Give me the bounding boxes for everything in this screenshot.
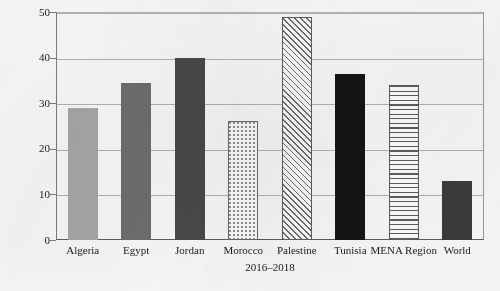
bar-world: [442, 181, 472, 240]
bar-jordan: [175, 58, 205, 240]
bar-chart: Youth Unemployment % 01020304050 Algeria…: [0, 0, 500, 291]
y-tick-mark: [50, 240, 56, 241]
y-tick-label: 20: [24, 143, 50, 154]
bar-algeria: [68, 108, 98, 240]
y-tick-label: 50: [24, 7, 50, 18]
bar-egypt: [121, 83, 151, 240]
x-tick-label-world: World: [406, 243, 500, 257]
y-tick-label: 10: [24, 189, 50, 200]
y-tick-label: 40: [24, 52, 50, 63]
y-tick-label: 30: [24, 98, 50, 109]
bar-tunisia: [335, 74, 365, 240]
x-axis-ticks: AlgeriaEgyptJordanMoroccoPalestineTunisi…: [56, 243, 484, 263]
x-axis-title: 2016–2018: [56, 261, 484, 273]
bar-series: [56, 12, 484, 240]
bar-palestine: [282, 17, 312, 240]
bar-mena-region: [389, 85, 419, 240]
bar-morocco: [228, 121, 258, 240]
